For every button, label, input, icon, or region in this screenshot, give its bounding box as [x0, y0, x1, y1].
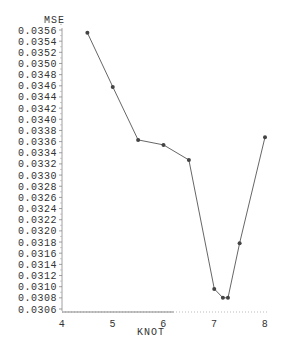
data-point-marker — [263, 135, 267, 139]
y-tick-label: 0.0340 — [18, 115, 57, 126]
y-tick-label: 0.0330 — [18, 171, 57, 182]
y-tick-label: 0.0346 — [18, 81, 57, 92]
x-axis-title: KNOT — [137, 327, 165, 338]
data-series — [85, 31, 267, 300]
x-tick-label: 7 — [211, 319, 218, 330]
y-tick-label: 0.0318 — [18, 238, 57, 249]
y-tick-label: 0.0312 — [18, 271, 57, 282]
y-tick-label: 0.0320 — [18, 226, 57, 237]
y-tick-label: 0.0308 — [18, 293, 57, 304]
y-tick-label: 0.0314 — [18, 260, 57, 271]
y-tick-label: 0.0344 — [18, 92, 57, 103]
x-tick-label: 8 — [262, 319, 269, 330]
y-tick-label: 0.0342 — [18, 104, 57, 115]
y-tick-label: 0.0328 — [18, 182, 57, 193]
y-tick-label: 0.0338 — [18, 126, 57, 137]
data-point-marker — [221, 296, 225, 300]
y-tick-label: 0.0324 — [18, 204, 57, 215]
y-tick-label: 0.0326 — [18, 193, 57, 204]
y-tick-label: 0.0306 — [18, 305, 57, 316]
y-tick-label: 0.0332 — [18, 159, 57, 170]
y-tick-label: 0.0350 — [18, 59, 57, 70]
data-point-marker — [111, 85, 115, 89]
y-tick-label: 0.0352 — [18, 48, 57, 59]
y-tick-label: 0.0316 — [18, 249, 57, 260]
x-tick-label: 4 — [59, 319, 66, 330]
y-axis: 0.03560.03540.03520.03500.03480.03460.03… — [18, 24, 62, 315]
y-tick-label: 0.0310 — [18, 282, 57, 293]
y-tick-label: 0.0356 — [18, 26, 57, 37]
mse-vs-knot-chart: 0.03560.03540.03520.03500.03480.03460.03… — [0, 0, 284, 351]
y-tick-label: 0.0348 — [18, 70, 57, 81]
y-axis-title: MSE — [44, 15, 65, 26]
data-point-marker — [136, 138, 140, 142]
data-point-marker — [187, 158, 191, 162]
y-tick-label: 0.0354 — [18, 37, 57, 48]
data-point-marker — [212, 287, 216, 291]
data-point-marker — [238, 241, 242, 245]
series-line — [87, 33, 265, 298]
data-point-marker — [85, 31, 89, 35]
data-point-marker — [162, 143, 166, 147]
x-tick-label: 5 — [109, 319, 116, 330]
y-tick-label: 0.0336 — [18, 137, 57, 148]
data-point-marker — [226, 296, 230, 300]
y-tick-label: 0.0322 — [18, 215, 57, 226]
y-tick-label: 0.0334 — [18, 148, 57, 159]
